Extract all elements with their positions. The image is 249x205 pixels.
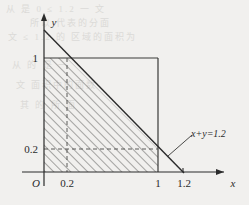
origin-label: O — [32, 177, 40, 189]
y-axis-label: y — [51, 16, 57, 28]
x-axis-arrow — [216, 169, 224, 175]
x-axis-label: x — [230, 177, 236, 189]
x-tick-label-0.2: 0.2 — [60, 177, 74, 189]
y-tick-label-1: 1 — [33, 52, 39, 64]
hatched-region — [44, 58, 158, 172]
x-tick-label-1.2: 1.2 — [177, 177, 191, 189]
coordinate-plot: O 0.2 1 1.2 0.2 1 x y x+y=1.2 — [0, 0, 249, 205]
figure-container: 从 是 0 ≤ 1.2 一 文 所以 代表的分面 文 ≤ 1.2 的 区域的面积… — [0, 0, 249, 205]
x-tick-label-1: 1 — [155, 177, 161, 189]
y-axis-arrow — [41, 13, 47, 21]
y-tick-label-0.2: 0.2 — [24, 143, 38, 155]
line-equation-label: x+y=1.2 — [190, 128, 226, 139]
equation-leader-line — [168, 135, 192, 156]
